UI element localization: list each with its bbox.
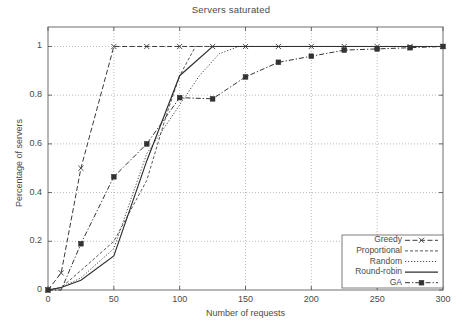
x-tick-label: 100 <box>160 294 200 304</box>
legend-label-proportional: Proportional <box>344 245 402 255</box>
y-tick-label: 1 <box>8 40 42 50</box>
legend-label-round-robin: Round-robin <box>344 266 402 276</box>
x-tick-label: 50 <box>94 294 134 304</box>
chart-figure: Servers saturated Percentage of servers … <box>0 0 462 330</box>
y-tick-label: 0.2 <box>8 235 42 245</box>
legend-label-greedy: Greedy <box>344 234 402 244</box>
x-tick-label: 250 <box>357 294 397 304</box>
x-tick-label: 150 <box>226 294 266 304</box>
x-tick-label: 0 <box>28 294 68 304</box>
y-tick-label: 0 <box>8 284 42 294</box>
x-tick-label: 200 <box>291 294 331 304</box>
y-tick-label: 0.8 <box>8 89 42 99</box>
legend-label-ga: GA <box>344 277 402 287</box>
y-tick-label: 0.4 <box>8 187 42 197</box>
x-tick-label: 300 <box>423 294 462 304</box>
y-tick-label: 0.6 <box>8 138 42 148</box>
legend-label-random: Random <box>344 256 402 266</box>
